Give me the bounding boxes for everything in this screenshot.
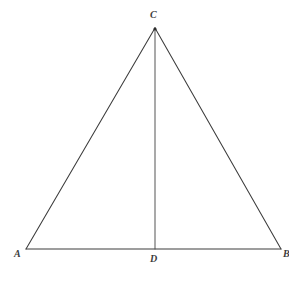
vertex-label-a: A bbox=[14, 249, 21, 259]
segment-ac bbox=[26, 28, 155, 249]
geometry-figure-canvas: C A D B bbox=[0, 0, 289, 289]
vertex-label-d: D bbox=[150, 254, 157, 264]
apex-vertex-marker bbox=[153, 27, 156, 30]
segment-cb bbox=[155, 28, 281, 249]
vertex-label-c: C bbox=[150, 10, 157, 20]
vertex-label-b: B bbox=[283, 249, 289, 259]
triangle-diagram-svg bbox=[0, 0, 289, 289]
